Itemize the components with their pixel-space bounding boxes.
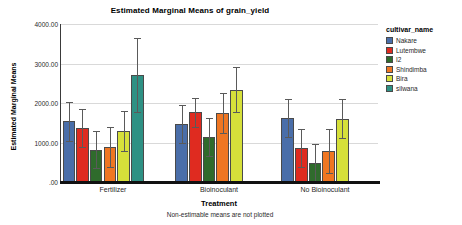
error-bar-cap — [206, 156, 213, 157]
error-bar — [195, 98, 196, 126]
error-bar-cap — [121, 151, 128, 152]
error-bar — [69, 102, 70, 141]
error-bar-cap — [66, 141, 73, 142]
error-bar-cap — [79, 147, 86, 148]
legend-item[interactable]: Nakare — [386, 36, 462, 45]
error-bar — [82, 109, 83, 147]
legend-item[interactable]: I2 — [386, 55, 462, 64]
chart-container: Estimated Marginal Means of grain_yield … — [0, 0, 462, 225]
legend-item[interactable]: Shindimba — [386, 65, 462, 74]
error-bar — [315, 144, 316, 182]
chart-footnote: Non-estimable means are not plotted — [30, 211, 410, 218]
error-bar-cap — [192, 127, 199, 128]
x-axis-category-label: Fertilizer — [60, 186, 166, 193]
y-axis-tick-label: .00 — [2, 179, 58, 186]
y-axis-title: Estimated Marginal Means — [10, 47, 17, 167]
error-bar-cap — [192, 98, 199, 99]
error-bar-cap — [312, 144, 319, 145]
error-bar — [124, 111, 125, 151]
error-bar — [236, 67, 237, 111]
error-bar-cap — [339, 138, 346, 139]
legend-item-label: I2 — [396, 56, 401, 63]
error-bar-cap — [93, 168, 100, 169]
error-bar-cap — [79, 109, 86, 110]
legend-item[interactable]: Bira — [386, 74, 462, 83]
y-axis-tick-label: 4000.00 — [2, 21, 58, 28]
legend-swatch-icon — [386, 37, 393, 44]
legend-items: NakareLutembweI2ShindimbaBirasilwana — [386, 36, 462, 93]
error-bar — [137, 38, 138, 113]
error-bar — [301, 129, 302, 167]
x-axis-line — [60, 181, 380, 184]
legend-swatch-icon — [386, 47, 393, 54]
error-bar-cap — [339, 99, 346, 100]
legend-item-label: silwana — [396, 85, 418, 92]
error-bar-cap — [220, 93, 227, 94]
error-bar-cap — [107, 167, 114, 168]
x-axis-title: Treatment — [60, 199, 378, 208]
legend: cultivar_name NakareLutembweI2ShindimbaB… — [386, 26, 462, 93]
error-bar-cap — [298, 167, 305, 168]
legend-swatch-icon — [386, 75, 393, 82]
error-bar-cap — [285, 137, 292, 138]
legend-item-label: Shindimba — [396, 66, 427, 73]
legend-item[interactable]: silwana — [386, 84, 462, 93]
error-bar-cap — [121, 111, 128, 112]
error-bar-cap — [233, 67, 240, 68]
error-bar-cap — [298, 129, 305, 130]
error-bar — [223, 93, 224, 133]
error-bar-cap — [220, 133, 227, 134]
error-bar-cap — [66, 102, 73, 103]
legend-swatch-icon — [386, 85, 393, 92]
legend-swatch-icon — [386, 66, 393, 73]
error-bar — [288, 99, 289, 138]
legend-item[interactable]: Lutembwe — [386, 46, 462, 55]
error-bar-cap — [134, 38, 141, 39]
legend-title: cultivar_name — [386, 26, 462, 33]
error-bar-cap — [179, 105, 186, 106]
error-bar-cap — [285, 99, 292, 100]
error-bar — [329, 129, 330, 172]
error-bar-cap — [206, 118, 213, 119]
legend-item-label: Bira — [396, 75, 408, 82]
error-bar-cap — [326, 173, 333, 174]
error-bar — [110, 127, 111, 166]
error-bar — [96, 131, 97, 169]
error-bar-cap — [326, 129, 333, 130]
error-bar-cap — [134, 112, 141, 113]
error-bar-cap — [233, 112, 240, 113]
error-bar-cap — [93, 131, 100, 132]
legend-item-label: Nakare — [396, 37, 417, 44]
x-axis-category-label: No Bioinoculant — [272, 186, 378, 193]
error-bar-cap — [107, 127, 114, 128]
bars-layer — [60, 24, 378, 182]
error-bar — [342, 99, 343, 138]
error-bar-cap — [179, 143, 186, 144]
x-axis-category-label: Bioinoculant — [166, 186, 272, 193]
error-bar — [209, 118, 210, 156]
legend-swatch-icon — [386, 56, 393, 63]
legend-item-label: Lutembwe — [396, 47, 426, 54]
error-bar — [182, 105, 183, 144]
